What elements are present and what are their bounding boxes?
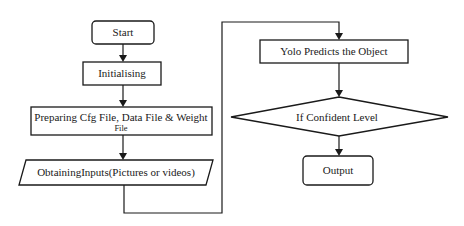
node-start: Start: [92, 21, 154, 44]
edge-prepare-inputs: [119, 135, 127, 160]
node-initialising: Initialising: [83, 62, 161, 85]
node-yolo-predicts: Yolo Predicts the Object: [260, 40, 408, 63]
node-preparing: Preparing Cfg File, Data File & Weight F…: [31, 107, 212, 135]
node-confident-level-label: If Confident Level: [296, 111, 378, 123]
node-output-label: Output: [323, 164, 354, 176]
node-output: Output: [303, 156, 373, 185]
node-obtaining-inputs-label: ObtainingInputs(Pictures or videos): [37, 166, 195, 179]
edge-init-prepare: [119, 85, 127, 107]
node-obtaining-inputs: ObtainingInputs(Pictures or videos): [19, 160, 213, 185]
node-initialising-label: Initialising: [98, 67, 146, 79]
node-preparing-label-line1: Preparing Cfg File, Data File & Weight: [34, 111, 207, 123]
edge-start-init: [119, 44, 127, 62]
node-start-label: Start: [113, 26, 134, 38]
node-yolo-predicts-label: Yolo Predicts the Object: [280, 45, 387, 57]
edge-yolo-confident: [335, 63, 343, 97]
node-confident-level: If Confident Level: [231, 97, 448, 136]
edge-confident-output: [335, 136, 343, 156]
node-preparing-label-line2: File: [114, 123, 127, 133]
flowchart: Start Initialising Preparing Cfg File, D…: [0, 0, 464, 226]
